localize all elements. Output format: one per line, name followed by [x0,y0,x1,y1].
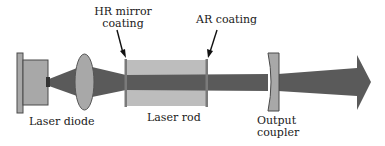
laser-diode-emitter [46,77,50,87]
ar-annotation-arrow [207,30,217,58]
output-coupler-label-line2: coupler [257,127,299,139]
laser-beam [126,74,268,91]
laser-rod-label: Laser rod [147,112,201,124]
hr-annotation-arrow [117,30,126,58]
output-coupler-label: Output coupler [257,115,299,139]
pump-beam-diverging [49,68,77,96]
output-beam-arrow [278,55,371,110]
laser-diagram: HR mirror coating AR coating Laser diode… [0,0,385,146]
hr-mirror-coating [125,59,128,107]
hr-coating-label: HR mirror coating [88,6,158,30]
pump-beam-converging [92,67,126,97]
laser-diode-body [23,60,48,105]
laser-diode-label: Laser diode [29,116,95,128]
output-coupler [268,53,279,111]
ar-coating-label: AR coating [196,14,257,26]
ar-coating [206,59,209,107]
focusing-lens [75,54,94,110]
laser-diode-mount-plate [17,53,23,113]
hr-coating-label-line2: coating [88,18,158,30]
